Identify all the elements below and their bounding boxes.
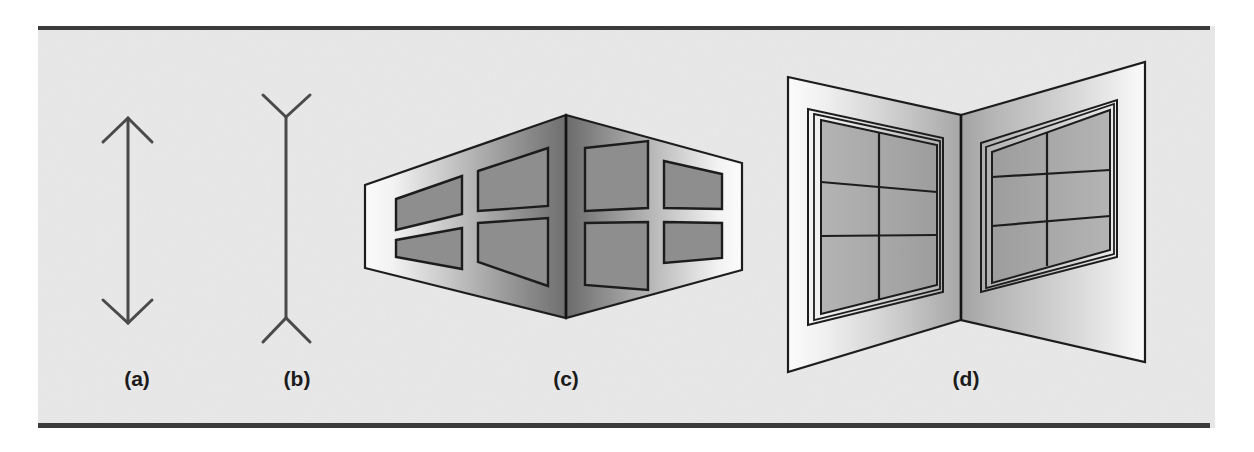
window-c-r1 xyxy=(585,141,648,211)
figure-plate: (a) (b) (c) (d) xyxy=(0,0,1254,452)
window-left-d xyxy=(808,109,943,325)
bottom-rule xyxy=(38,423,1210,428)
label-b: (b) xyxy=(284,367,311,390)
window-c-r3 xyxy=(585,222,648,290)
label-d: (d) xyxy=(953,367,980,390)
top-rule xyxy=(38,26,1210,30)
window-c-r4 xyxy=(664,222,722,263)
illusion-figure-canvas: (a) (b) (c) (d) xyxy=(0,0,1254,452)
label-a: (a) xyxy=(124,367,150,390)
label-c: (c) xyxy=(553,367,579,390)
window-left-d-mullion-h2 xyxy=(821,235,937,236)
